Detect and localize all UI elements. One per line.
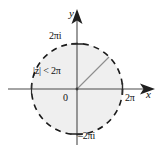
region-inequality-label: |z| < 2π [33, 66, 61, 76]
origin-label: 0 [63, 93, 68, 103]
tick-label-bottom: –2πi [78, 131, 95, 141]
origin-point [76, 88, 79, 91]
y-axis-label: y [69, 8, 74, 19]
tick-label-right: 2π [125, 93, 135, 103]
complex-plane-diagram: y x 2πi –2πi 2π |z| < 2π 0 [0, 0, 161, 151]
diagram-canvas [0, 0, 161, 151]
x-axis-label: x [146, 89, 151, 100]
tick-label-top: 2πi [49, 31, 61, 41]
